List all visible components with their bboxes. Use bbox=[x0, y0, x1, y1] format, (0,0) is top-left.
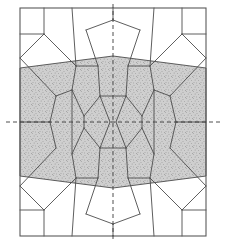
tessellation-figure bbox=[0, 0, 226, 252]
figure-canvas bbox=[0, 0, 226, 252]
